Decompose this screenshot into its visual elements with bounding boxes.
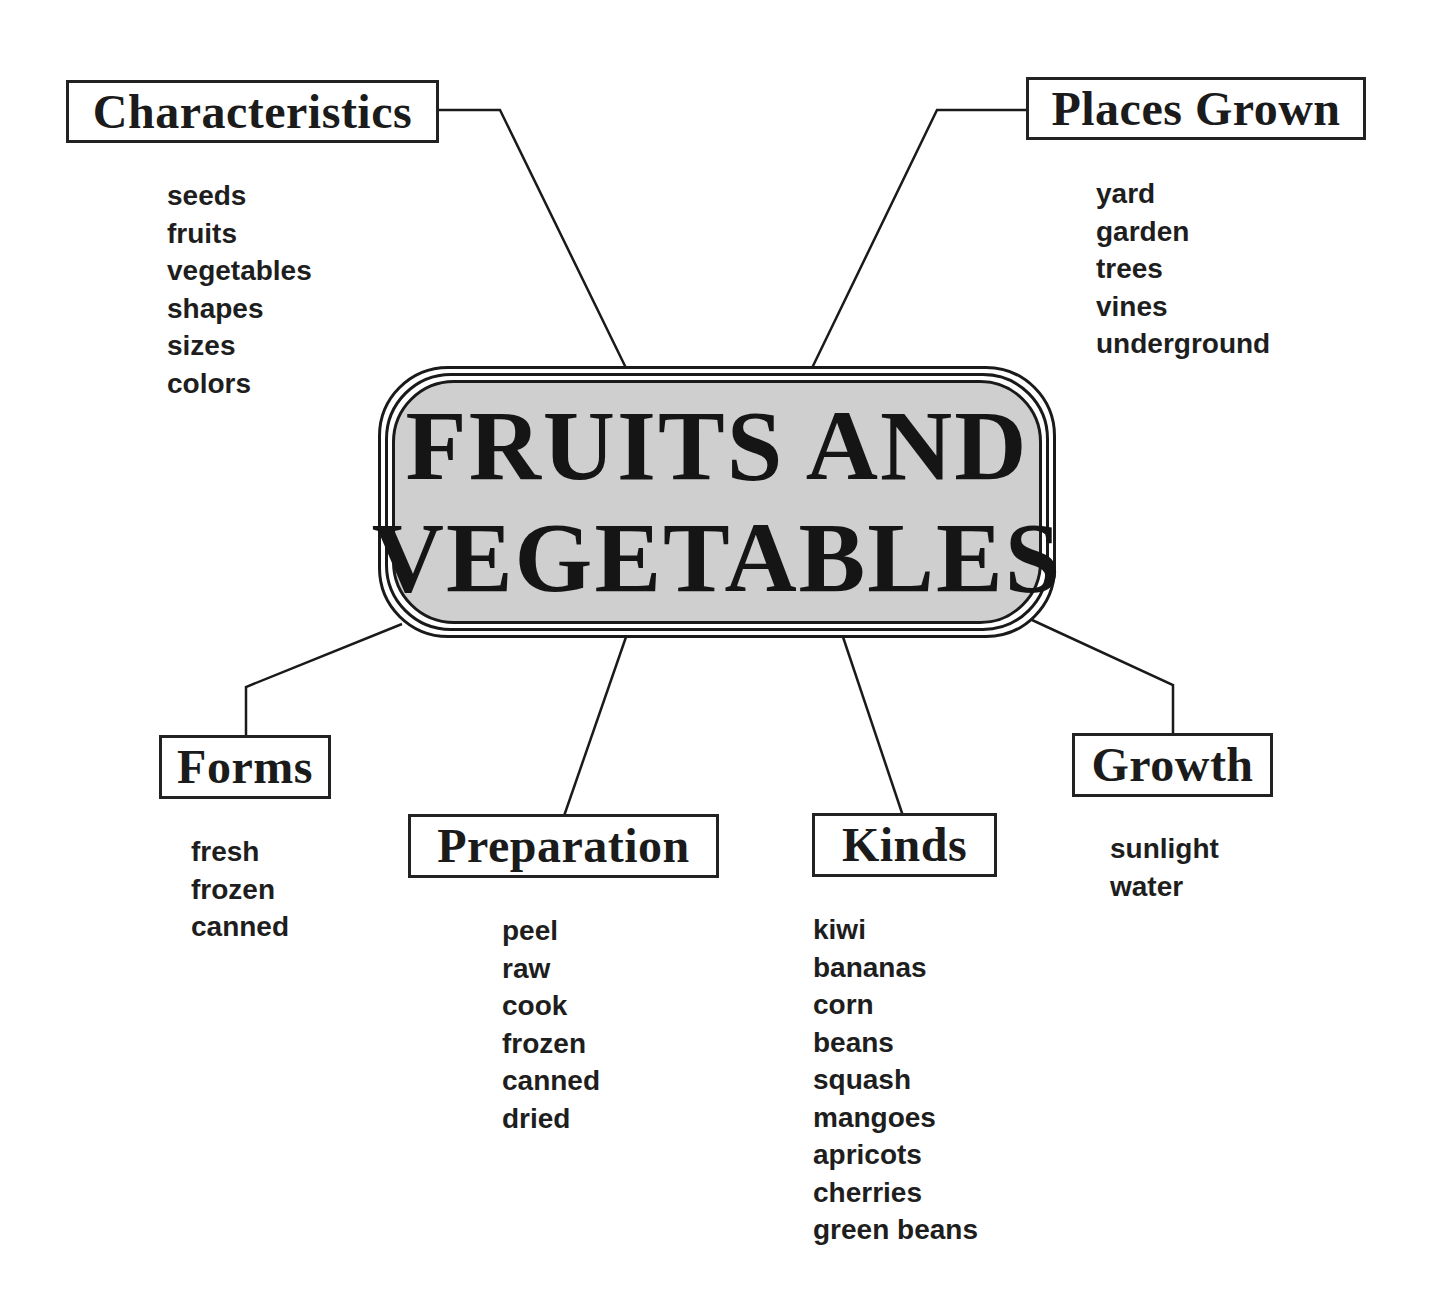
branch-list-growth: sunlight water: [1110, 830, 1219, 905]
list-item: peel: [502, 912, 600, 950]
connector-forms: [246, 624, 402, 738]
central-topic-ring: FRUITS AND VEGETABLES: [385, 373, 1049, 631]
list-item: colors: [167, 365, 312, 403]
connector-preparation: [564, 637, 626, 816]
list-item: fresh: [191, 833, 289, 871]
list-item: trees: [1096, 250, 1270, 288]
central-title-line-2: VEGETABLES: [372, 502, 1063, 614]
branch-list-kinds: kiwi bananas corn beans squash mangoes a…: [813, 911, 978, 1249]
list-item: cherries: [813, 1174, 978, 1212]
list-item: cook: [502, 987, 600, 1025]
list-item: garden: [1096, 213, 1270, 251]
branch-label-kinds: Kinds: [812, 813, 997, 877]
branch-list-characteristics: seeds fruits vegetables shapes sizes col…: [167, 177, 312, 402]
list-item: canned: [191, 908, 289, 946]
list-item: beans: [813, 1024, 978, 1062]
list-item: mangoes: [813, 1099, 978, 1137]
list-item: water: [1110, 868, 1219, 906]
list-item: fruits: [167, 215, 312, 253]
branch-label-growth: Growth: [1072, 733, 1273, 797]
list-item: canned: [502, 1062, 600, 1100]
list-item: yard: [1096, 175, 1270, 213]
central-title-line-1: FRUITS AND: [406, 390, 1029, 502]
list-item: underground: [1096, 325, 1270, 363]
connector-places-grown: [812, 110, 1028, 368]
central-topic-fill: FRUITS AND VEGETABLES: [392, 380, 1042, 624]
list-item: apricots: [813, 1136, 978, 1174]
list-item: vegetables: [167, 252, 312, 290]
list-item: raw: [502, 950, 600, 988]
branch-list-places-grown: yard garden trees vines underground: [1096, 175, 1270, 363]
list-item: bananas: [813, 949, 978, 987]
list-item: green beans: [813, 1211, 978, 1249]
branch-list-preparation: peel raw cook frozen canned dried: [502, 912, 600, 1137]
list-item: dried: [502, 1100, 600, 1138]
branch-label-forms: Forms: [159, 735, 331, 799]
list-item: vines: [1096, 288, 1270, 326]
branch-list-forms: fresh frozen canned: [191, 833, 289, 946]
list-item: frozen: [191, 871, 289, 909]
list-item: corn: [813, 986, 978, 1024]
list-item: seeds: [167, 177, 312, 215]
list-item: squash: [813, 1061, 978, 1099]
list-item: sunlight: [1110, 830, 1219, 868]
list-item: shapes: [167, 290, 312, 328]
branch-label-preparation: Preparation: [408, 814, 719, 878]
list-item: kiwi: [813, 911, 978, 949]
branch-label-characteristics: Characteristics: [66, 80, 439, 143]
central-topic: FRUITS AND VEGETABLES: [378, 366, 1056, 638]
connector-kinds: [843, 637, 903, 816]
list-item: sizes: [167, 327, 312, 365]
branch-label-places-grown: Places Grown: [1026, 77, 1366, 140]
list-item: frozen: [502, 1025, 600, 1063]
concept-map: FRUITS AND VEGETABLES Characteristics se…: [0, 0, 1431, 1316]
connector-growth: [1032, 620, 1173, 735]
connector-characteristics: [438, 110, 626, 368]
